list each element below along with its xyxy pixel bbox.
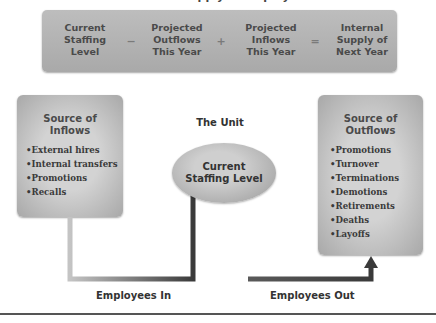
unit-center-label: Current Staffing Level xyxy=(172,161,276,185)
bottom-divider xyxy=(0,313,436,315)
employees-out-label: Employees Out xyxy=(270,290,355,301)
employees-out-arrow xyxy=(248,196,378,279)
unit-staffing-ellipse: Current Staffing Level xyxy=(172,143,276,203)
arrow-head-up-icon xyxy=(364,256,378,268)
employees-in-label: Employees In xyxy=(96,290,171,301)
